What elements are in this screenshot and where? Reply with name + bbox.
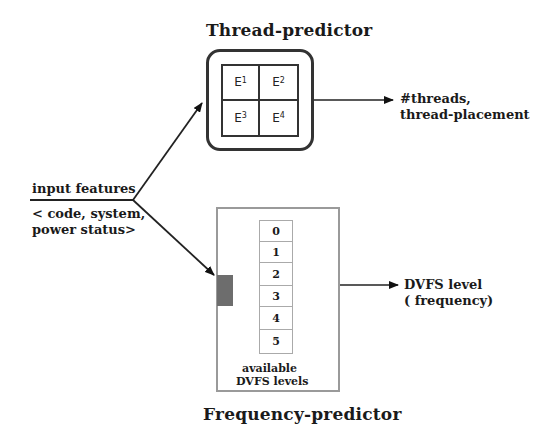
input-features-desc: < code, system, power status>	[32, 206, 145, 238]
dvfs-level-cell: 1	[260, 242, 292, 263]
dvfs-levels-column: 0 1 2 3 4 5	[259, 220, 293, 354]
thread-output-label: #threads, thread-placement	[400, 91, 530, 123]
thread-predictor-title: Thread-predictor	[206, 20, 372, 40]
expert-cell: E3	[223, 101, 260, 136]
dvfs-level-cell: 5	[260, 330, 292, 353]
expert-cell: E2	[260, 66, 297, 101]
dvfs-selector	[217, 275, 233, 306]
expert-cell: E1	[223, 66, 260, 101]
frequency-predictor-title: Frequency-predictor	[203, 404, 402, 424]
dvfs-output-label: DVFS level ( frequency)	[404, 277, 493, 309]
expert-cell: E4	[260, 101, 297, 136]
dvfs-level-cell: 0	[260, 221, 292, 242]
dvfs-level-cell: 3	[260, 286, 292, 307]
available-dvfs-caption: available DVFS levels	[236, 362, 308, 388]
dvfs-level-cell: 4	[260, 307, 292, 330]
input-features-label: input features	[32, 181, 136, 197]
dvfs-level-cell: 2	[260, 263, 292, 286]
expert-grid: E1 E2 E3 E4	[221, 64, 299, 137]
